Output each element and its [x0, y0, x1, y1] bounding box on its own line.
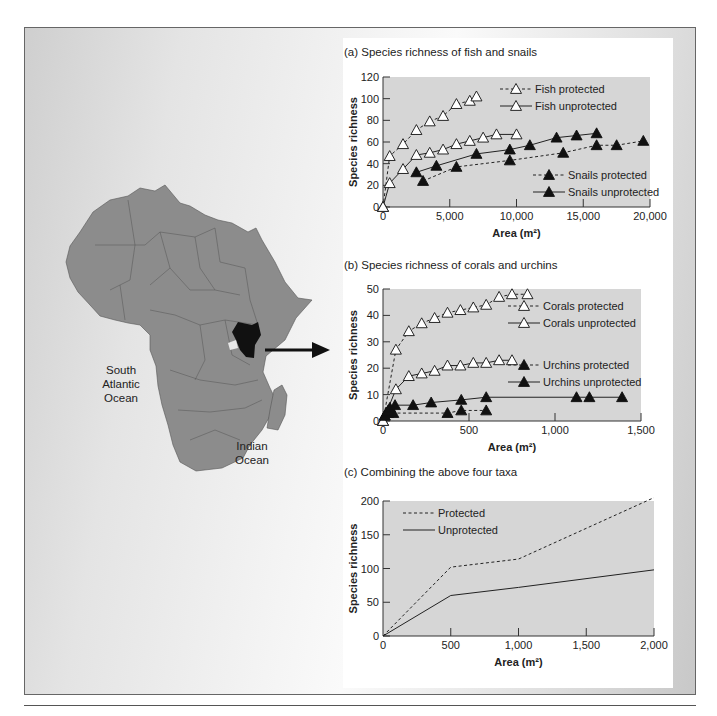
chart-a: 02040608010012005,00010,00015,00020,000A… [343, 70, 673, 250]
x-tick-label: 15,000 [566, 210, 600, 222]
legend-label: Urchins unprotected [543, 376, 641, 388]
legend-label: Snails protected [568, 169, 647, 181]
y-tick-label: 30 [367, 336, 379, 348]
y-tick-label: 20 [367, 179, 379, 191]
y-tick-label: 100 [361, 563, 379, 575]
y-tick-label: 0 [373, 630, 379, 642]
africa-landmass [66, 185, 312, 471]
chart-b-title: (b) Species richness of corals and urchi… [344, 259, 558, 271]
legend-label: Urchins protected [543, 359, 629, 371]
x-tick-label: 10,000 [500, 210, 534, 222]
legend-item: Snails protected [533, 169, 647, 181]
x-tick-label: 20,000 [633, 210, 667, 222]
svg-text:Ocean: Ocean [104, 392, 138, 404]
chart-c-title: (c) Combining the above four taxa [344, 466, 517, 478]
x-axis-label: Area (m²) [488, 441, 537, 453]
y-tick-label: 200 [361, 495, 379, 507]
y-tick-label: 10 [367, 389, 379, 401]
chart-c: 05010015020005001,0001,5002,000Area (m²)… [343, 494, 673, 684]
x-tick-label: 1,500 [572, 639, 600, 651]
svg-text:Atlantic: Atlantic [102, 378, 140, 390]
y-tick-label: 50 [367, 283, 379, 295]
x-tick-label: 0 [380, 639, 386, 651]
y-tick-label: 20 [367, 362, 379, 374]
legend-label: Snails unprotected [568, 186, 659, 198]
x-axis-label: Area (m²) [492, 227, 541, 239]
x-tick-label: 500 [442, 639, 460, 651]
svg-text:Ocean: Ocean [235, 454, 269, 466]
ocean-label-atlantic: South Atlantic Ocean [102, 364, 140, 404]
x-tick-label: 1,000 [505, 639, 533, 651]
svg-text:Indian: Indian [236, 440, 267, 452]
x-tick-label: 500 [460, 424, 478, 436]
chart-a-title: (a) Species richness of fish and snails [344, 46, 537, 58]
svg-text:South: South [106, 364, 136, 376]
plot-area [383, 501, 654, 636]
y-axis-label: Species richness [347, 310, 359, 400]
x-tick-label: 2,000 [640, 639, 668, 651]
x-tick-label: 1,500 [627, 424, 655, 436]
y-tick-label: 40 [367, 158, 379, 170]
y-tick-label: 100 [361, 93, 379, 105]
x-tick-label: 1,000 [541, 424, 569, 436]
legend-label: Unprotected [438, 524, 498, 536]
y-axis-label: Species richness [347, 524, 359, 614]
legend-label: Corals protected [543, 300, 624, 312]
y-tick-label: 120 [361, 71, 379, 83]
legend-item: Fish protected [500, 83, 605, 95]
y-tick-label: 80 [367, 114, 379, 126]
x-axis-label: Area (m²) [494, 656, 543, 668]
legend-label: Protected [438, 507, 485, 519]
chart-b: 0102030405005001,0001,500Area (m²)Specie… [343, 282, 673, 462]
legend-label: Fish protected [535, 83, 605, 95]
legend-label: Corals unprotected [543, 317, 636, 329]
y-tick-label: 150 [361, 529, 379, 541]
y-tick-label: 40 [367, 309, 379, 321]
legend-label: Fish unprotected [535, 100, 617, 112]
y-tick-label: 50 [367, 596, 379, 608]
x-tick-label: 5,000 [436, 210, 464, 222]
y-tick-label: 60 [367, 136, 379, 148]
y-axis-label: Species richness [347, 97, 359, 187]
